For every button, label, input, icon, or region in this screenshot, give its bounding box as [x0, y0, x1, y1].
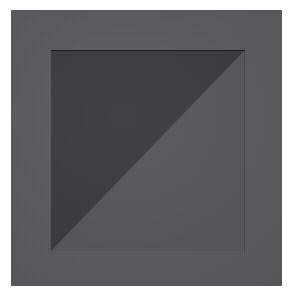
- gray-ground-panel: [11, 10, 282, 286]
- inner-square: [51, 50, 245, 251]
- artwork-canvas: [0, 0, 290, 296]
- square-top-edge-line: [51, 50, 245, 51]
- lower-left-dark-triangle: [51, 50, 245, 251]
- square-right-edge-line: [244, 50, 245, 251]
